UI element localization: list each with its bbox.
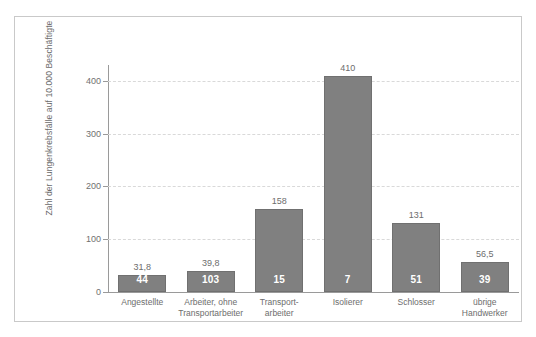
bar-value-label: 39,8	[202, 258, 220, 268]
y-tick-mark	[103, 186, 108, 187]
bar-count-label: 15	[256, 274, 302, 285]
bar[interactable]: 15	[255, 209, 303, 292]
chart-figure: Zahl der Lungenkrebsfälle auf 10.000 Bes…	[0, 0, 536, 337]
bar[interactable]: 7	[324, 76, 372, 292]
bar-count-label: 103	[188, 274, 234, 285]
plot-area: 0100200300400 4431,8Angestellte10339,8Ar…	[108, 65, 519, 292]
y-tick-label: 300	[86, 129, 101, 139]
bar-group[interactable]: 10339,8Arbeiter, ohneTransportarbeiter	[187, 65, 235, 292]
gridline	[108, 239, 519, 240]
y-tick-mark	[103, 292, 108, 293]
bar-group[interactable]: 4431,8Angestellte	[118, 65, 166, 292]
bar-group[interactable]: 15158Transport-arbeiter	[255, 65, 303, 292]
category-label-line: Handwerker	[442, 308, 528, 319]
y-tick-mark	[103, 134, 108, 135]
gridline	[108, 134, 519, 135]
bar-value-label: 131	[409, 210, 424, 220]
y-tick-label: 200	[86, 181, 101, 191]
category-label-line: arbeiter	[236, 308, 322, 319]
bar-count-label: 51	[393, 274, 439, 285]
y-tick-mark	[103, 81, 108, 82]
bar[interactable]: 103	[187, 271, 235, 292]
x-axis-line	[108, 292, 519, 293]
bar-value-label: 56,5	[476, 249, 494, 259]
bar-count-label: 39	[462, 274, 508, 285]
gridline	[108, 81, 519, 82]
y-tick-label: 0	[96, 287, 101, 297]
bar-value-label: 158	[272, 196, 287, 206]
gridline	[108, 186, 519, 187]
chart-frame: Zahl der Lungenkrebsfälle auf 10.000 Bes…	[14, 16, 522, 322]
bar-count-label: 7	[325, 274, 371, 285]
bar-group[interactable]: 3956,5übrigeHandwerker	[461, 65, 509, 292]
bar[interactable]: 51	[392, 223, 440, 292]
category-label-line: übrige	[442, 297, 528, 308]
y-axis-line	[108, 65, 109, 292]
bar-value-label: 410	[340, 63, 355, 73]
bar-value-label: 31,8	[133, 262, 151, 272]
y-tick-mark	[103, 239, 108, 240]
y-tick-label: 400	[86, 76, 101, 86]
y-axis-title: Zahl der Lungenkrebsfälle auf 10.000 Bes…	[44, 18, 54, 218]
bar[interactable]: 39	[461, 262, 509, 292]
x-axis-category-label: übrigeHandwerker	[442, 297, 528, 319]
bar-group[interactable]: 51131Schlosser	[392, 65, 440, 292]
y-tick-label: 100	[86, 234, 101, 244]
bar-count-label: 44	[119, 274, 165, 285]
bar-group[interactable]: 7410Isolierer	[324, 65, 372, 292]
bar[interactable]: 44	[118, 275, 166, 292]
